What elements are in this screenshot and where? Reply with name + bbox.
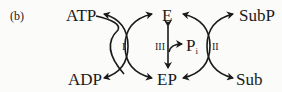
reaction-diagram: (b) ATP ADP E EP Pi SubP Sub I II III — [0, 0, 282, 92]
panel-label: (b) — [10, 10, 24, 22]
node-sub: Sub — [236, 71, 262, 88]
arc-II-right-lower — [207, 46, 233, 78]
arc-I-right-lower — [125, 46, 152, 78]
reaction-label-II: II — [212, 42, 219, 52]
reaction-label-III: III — [155, 42, 165, 52]
node-subp: SubP — [239, 7, 275, 24]
node-pi: Pi — [186, 37, 198, 56]
arrow-to-pi — [169, 44, 182, 52]
node-ep: EP — [157, 71, 177, 88]
node-e: E — [162, 7, 172, 24]
node-atp: ATP — [66, 7, 96, 24]
reaction-label-I: I — [122, 42, 125, 52]
arc-I-right-upper — [125, 14, 152, 46]
node-adp: ADP — [68, 71, 102, 88]
arrow-adp-to-atp — [96, 16, 124, 74]
arc-II-right-upper — [207, 14, 233, 46]
